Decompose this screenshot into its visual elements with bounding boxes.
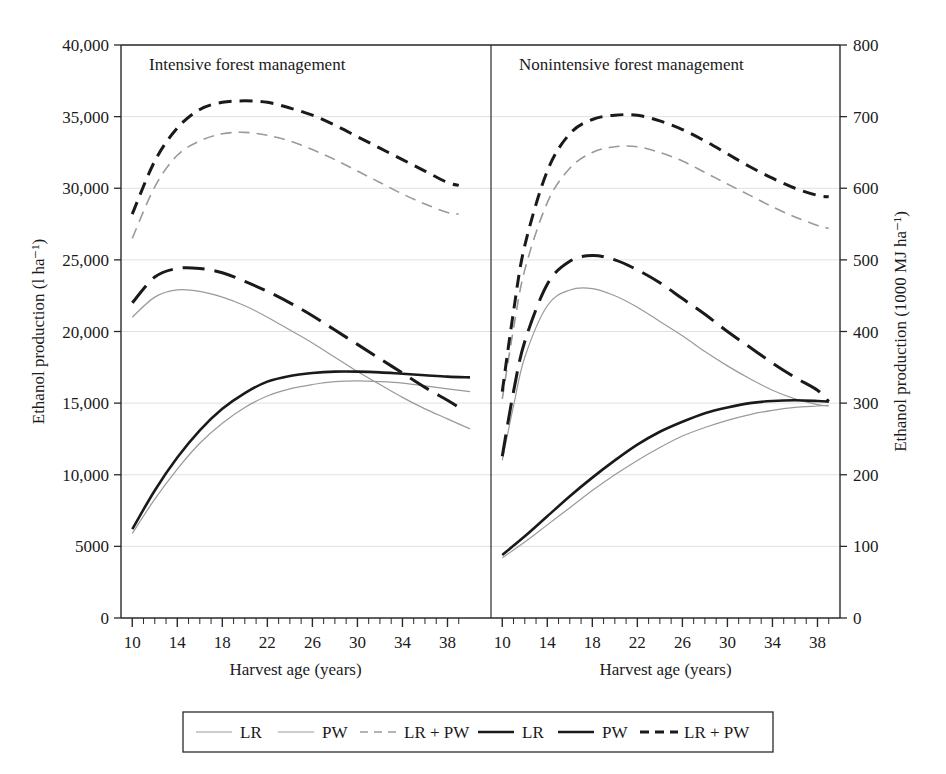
y-axis-tick-label-left: 25,000 — [62, 251, 109, 270]
x-axis-tick-label: 38 — [809, 633, 826, 652]
y-axis-tick-label-right: 400 — [853, 323, 879, 342]
x-axis-tick-label: 10 — [494, 633, 511, 652]
x-axis-tick-label: 14 — [169, 633, 187, 652]
panel-title-nonintensive: Nonintensive forest management — [519, 55, 744, 74]
gridlines-group — [121, 45, 840, 546]
y-axis-tick-label-left: 30,000 — [62, 179, 109, 198]
axis-ticks-group — [114, 45, 847, 627]
y-axis-tick-label-right: 200 — [853, 466, 879, 485]
data-series-group — [132, 101, 828, 558]
y-axis-tick-label-right: 500 — [853, 251, 879, 270]
legend-label-1: PW — [322, 723, 348, 742]
chart-figure: 0500010,00015,00020,00025,00030,00035,00… — [0, 0, 946, 774]
y-axis-tick-label-right: 100 — [853, 537, 879, 556]
panel-titles-group: Intensive forest managementNonintensive … — [149, 55, 744, 74]
legend-label-0: LR — [240, 723, 262, 742]
x-axis-tick-label: 18 — [214, 633, 231, 652]
series-line-nonintensive-4 — [502, 256, 828, 457]
y-axis-tick-label-left: 0 — [101, 609, 110, 628]
x-axis-tick-label: 18 — [584, 633, 601, 652]
x-axis-tick-label: 30 — [349, 633, 366, 652]
y-axis-tick-label-left: 20,000 — [62, 323, 109, 342]
y-axis-tick-label-left: 40,000 — [62, 36, 109, 55]
legend-label-3: LR — [522, 723, 544, 742]
axis-tick-labels-group: 0500010,00015,00020,00025,00030,00035,00… — [62, 36, 878, 652]
y-axis-tick-label-right: 300 — [853, 394, 879, 413]
x-axis-tick-label: 26 — [674, 633, 691, 652]
series-line-intensive-0 — [132, 381, 470, 534]
x-axis-tick-label: 34 — [394, 633, 412, 652]
series-line-intensive-1 — [132, 290, 470, 429]
x-axis-tick-label: 30 — [719, 633, 736, 652]
y-axis-title-right: Ethanol production (1000 MJ ha⁻¹) — [891, 211, 910, 452]
legend: LRPWLR + PWLRPWLR + PW — [183, 712, 773, 752]
y-axis-tick-label-left: 5000 — [75, 537, 109, 556]
x-axis-title: Harvest age (years) — [599, 660, 731, 679]
x-axis-tick-label: 10 — [124, 633, 141, 652]
y-axis-tick-label-left: 35,000 — [62, 108, 109, 127]
y-axis-tick-label-left: 15,000 — [62, 394, 109, 413]
y-axis-tick-label-right: 0 — [853, 609, 862, 628]
series-line-nonintensive-3 — [502, 400, 828, 555]
legend-label-4: PW — [602, 723, 628, 742]
x-axis-tick-label: 22 — [629, 633, 646, 652]
y-axis-tick-label-left: 10,000 — [62, 466, 109, 485]
y-axis-tick-label-right: 800 — [853, 36, 879, 55]
chart-canvas: 0500010,00015,00020,00025,00030,00035,00… — [0, 0, 946, 774]
series-line-intensive-3 — [132, 371, 470, 529]
x-axis-tick-label: 34 — [764, 633, 782, 652]
x-axis-tick-label: 14 — [539, 633, 557, 652]
series-line-intensive-2 — [132, 132, 458, 238]
y-axis-title-left: Ethanol production (l ha⁻¹) — [29, 239, 48, 424]
axis-titles-group: Harvest age (years)Harvest age (years)Et… — [29, 211, 910, 679]
series-line-nonintensive-1 — [502, 288, 828, 461]
legend-label-5: LR + PW — [684, 723, 750, 742]
panel-title-intensive: Intensive forest management — [149, 55, 346, 74]
series-line-intensive-4 — [132, 268, 458, 408]
series-line-nonintensive-5 — [502, 115, 828, 392]
series-line-nonintensive-2 — [502, 146, 828, 399]
x-axis-tick-label: 22 — [259, 633, 276, 652]
legend-label-2: LR + PW — [404, 723, 470, 742]
y-axis-tick-label-right: 700 — [853, 108, 879, 127]
x-axis-title: Harvest age (years) — [229, 660, 361, 679]
x-axis-tick-label: 38 — [439, 633, 456, 652]
y-axis-tick-label-right: 600 — [853, 179, 879, 198]
x-axis-tick-label: 26 — [304, 633, 321, 652]
